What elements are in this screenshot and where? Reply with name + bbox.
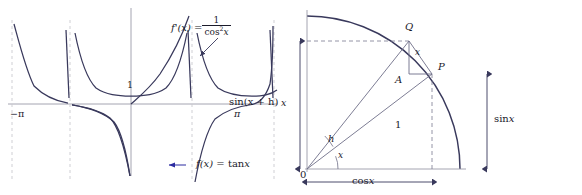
label-angle-x-top: x [415, 48, 420, 57]
sec2-arm-right-of-center [188, 30, 191, 98]
derivative-equation-label: f'(x) = 1 cos2x [171, 16, 231, 37]
sec2-branch-right [197, 33, 277, 96]
derivative-numerator: 1 [202, 16, 230, 26]
label-sin-x-plus-h: sin(x + h) [229, 97, 278, 107]
label-origin: 0 [300, 170, 306, 180]
label-point-p: P [438, 62, 445, 72]
tick-label-one: 1 [127, 80, 133, 90]
label-sin-x: sinx [494, 114, 514, 124]
label-region-a: A [395, 75, 402, 85]
label-angle-h: h [328, 134, 334, 144]
derivative-label-pointer [200, 38, 218, 56]
derivative-denominator: cos2x [202, 26, 230, 37]
cos-variable: x [223, 27, 228, 37]
radius-to-p [307, 74, 432, 169]
label-point-q: Q [405, 22, 413, 32]
label-cos-x: cosx [352, 176, 374, 186]
figure-root: f'(x) = 1 cos2x f(x) = tanx −π π 1 x [0, 0, 582, 195]
sin-text: sin [494, 113, 509, 124]
radius-to-q [307, 41, 409, 169]
derivative-fn-text: f'(x) = [171, 22, 202, 33]
cos-variable-right: x [369, 175, 375, 186]
cos-text-right: cos [352, 175, 369, 186]
tangent-equation-label: f(x) = tanx [196, 159, 250, 169]
sec2-arm-left-inner [66, 30, 69, 98]
tan-branch-1 [14, 24, 68, 103]
label-angle-x-bottom: x [338, 151, 343, 160]
sec-squared-curve-group [50, 30, 277, 98]
unit-circle-svg [291, 0, 582, 195]
derivative-fraction: 1 cos2x [202, 16, 230, 37]
tick-label-pi: π [234, 109, 240, 119]
tan-branch-2a [72, 105, 130, 176]
x-axis-label: x [281, 98, 286, 108]
sin-variable: x [509, 113, 515, 124]
unit-circle-diagram-panel: Q x A P 1 h x 0 sin(x + h) sinx cosx [291, 0, 582, 195]
tick-label-neg-pi: −π [10, 109, 24, 119]
tan-text: tan [228, 158, 244, 169]
label-radius-one: 1 [395, 120, 401, 130]
tan-branch-3a [195, 105, 252, 183]
unit-circle-arc [307, 16, 460, 169]
tangent-fn-text: f(x) = [196, 158, 225, 169]
tan-variable: x [244, 158, 250, 169]
sec2-spacer-left [50, 33, 65, 88]
cos-text: cos [204, 27, 219, 37]
